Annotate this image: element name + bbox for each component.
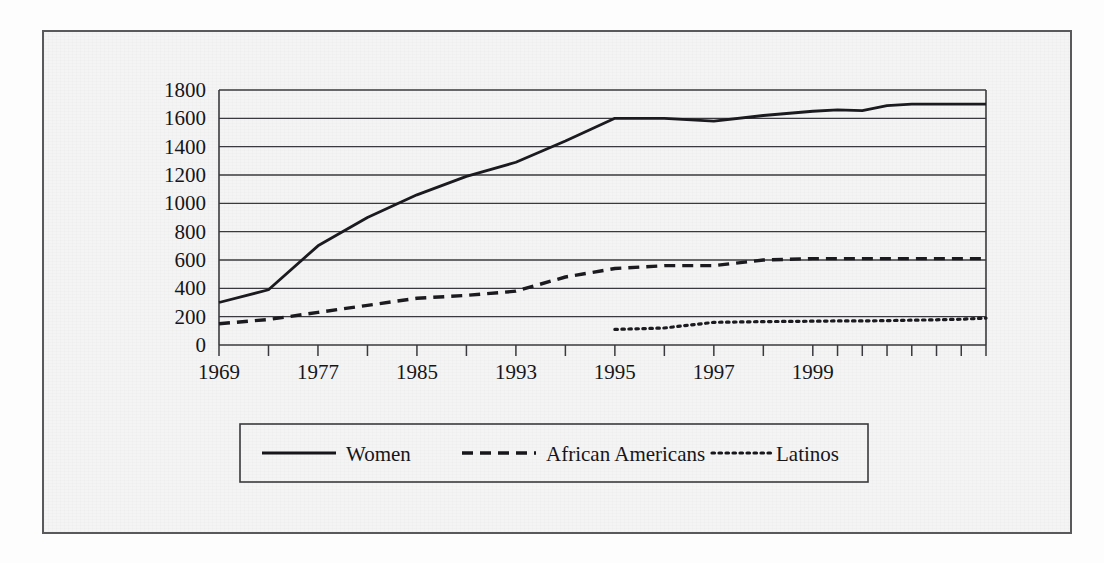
x-axis — [219, 345, 986, 356]
x-tick-label: 1969 — [198, 360, 240, 384]
series-line — [615, 318, 986, 329]
x-tick-labels: 1969197719851993199519971999 — [198, 360, 834, 384]
y-tick-labels: 020040060080010001200140016001800 — [164, 78, 206, 357]
x-tick-label: 1997 — [693, 360, 735, 384]
chart-figure: 0200400600800100012001400160018001969197… — [0, 0, 1104, 563]
y-tick-label: 0 — [196, 333, 207, 357]
x-tick-label: 1985 — [396, 360, 438, 384]
y-tick-label: 200 — [175, 305, 207, 329]
y-tick-label: 600 — [175, 248, 207, 272]
series-group — [219, 104, 986, 329]
y-tick-label: 1600 — [164, 106, 206, 130]
y-tick-label: 1200 — [164, 163, 206, 187]
legend-label: Women — [346, 442, 411, 466]
y-tick-label: 400 — [175, 276, 207, 300]
x-tick-label: 1977 — [297, 360, 339, 384]
legend-label: African Americans — [546, 442, 705, 466]
legend-label: Latinos — [776, 442, 839, 466]
x-tick-label: 1995 — [594, 360, 636, 384]
plot-frame — [219, 90, 986, 345]
y-tick-label: 1400 — [164, 135, 206, 159]
line-chart: 0200400600800100012001400160018001969197… — [0, 0, 1104, 563]
series-line — [219, 259, 986, 324]
y-tick-label: 1800 — [164, 78, 206, 102]
x-tick-label: 1999 — [792, 360, 834, 384]
y-tick-label: 800 — [175, 220, 207, 244]
y-tick-label: 1000 — [164, 191, 206, 215]
x-tick-label: 1993 — [495, 360, 537, 384]
legend: WomenAfrican AmericansLatinos — [240, 424, 868, 482]
